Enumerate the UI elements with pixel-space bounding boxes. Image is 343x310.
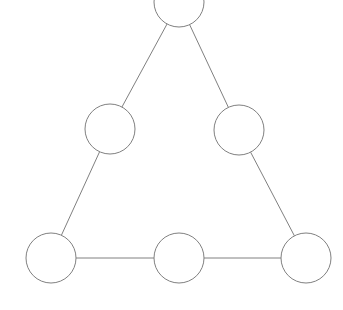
node-bottom-mid[interactable] (154, 233, 204, 283)
graph-svg (0, 0, 343, 310)
edge-top-midright[interactable] (190, 25, 229, 108)
node-bottom-right-circle[interactable] (281, 233, 331, 283)
node-top-circle[interactable] (154, 0, 204, 27)
node-mid-left[interactable] (85, 104, 135, 154)
nodes-layer (26, 0, 331, 283)
node-bottom-left[interactable] (26, 233, 76, 283)
diagram-canvas (0, 0, 343, 310)
node-bottom-mid-circle[interactable] (154, 233, 204, 283)
node-mid-left-circle[interactable] (85, 104, 135, 154)
node-bottom-right[interactable] (281, 233, 331, 283)
node-mid-right-circle[interactable] (214, 105, 264, 155)
edge-top-midleft[interactable] (122, 24, 167, 107)
node-bottom-left-circle[interactable] (26, 233, 76, 283)
edge-midleft-bottomleft[interactable] (61, 152, 99, 236)
node-mid-right[interactable] (214, 105, 264, 155)
edge-midright-bottomright[interactable] (251, 152, 295, 236)
node-top[interactable] (154, 0, 204, 27)
